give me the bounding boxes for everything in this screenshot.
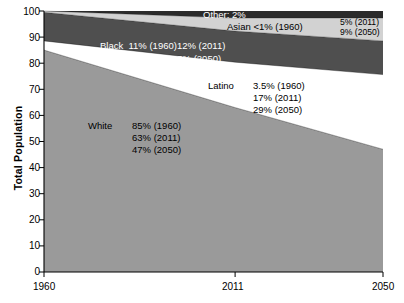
annotation-white-2050: 47% (2050) <box>132 144 181 156</box>
annotation-other: Other: 2% <box>203 9 246 21</box>
x-tick-2050: 2050 <box>372 281 394 292</box>
x-tick-1960: 1960 <box>33 281 55 292</box>
y-axis-ticks <box>39 11 44 272</box>
annotation-white-2011: 63% (2011) <box>132 132 180 144</box>
stacked-area-chart: Total Population 100 90 80 70 60 50 40 3… <box>0 0 404 303</box>
annotation-asian-label: Asian <1% (1960) <box>227 21 303 33</box>
annotation-black-line2: 13% (2050) <box>172 53 221 65</box>
annotation-black-line1: Black 11% (1960)12% (2011) <box>100 40 225 52</box>
x-tick-2011: 2011 <box>222 281 244 292</box>
annotation-latino-1960: 3.5% (1960) <box>253 80 305 92</box>
annotation-latino-2050: 29% (2050) <box>253 104 302 116</box>
annotation-asian-2050: 9% (2050) <box>340 27 380 37</box>
annotation-latino-label: Latino <box>208 80 234 92</box>
annotation-white-1960: 85% (1960) <box>132 120 181 132</box>
annotation-white-label: White <box>88 120 112 132</box>
x-axis-ticks <box>44 272 383 277</box>
annotation-asian-2011: 5% (2011) <box>340 17 379 27</box>
annotation-latino-2011: 17% (2011) <box>253 92 301 104</box>
